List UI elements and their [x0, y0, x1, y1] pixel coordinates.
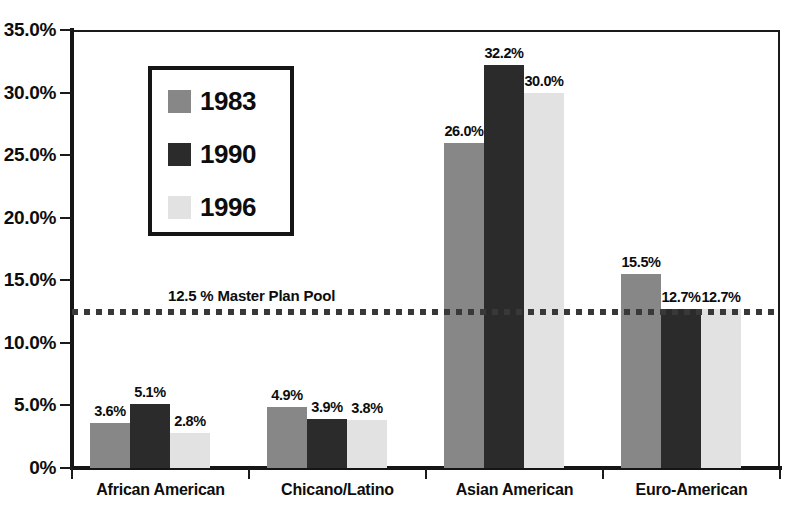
- y-axis-tick-label: 5.0%: [14, 394, 56, 416]
- bar: [267, 407, 307, 468]
- legend-swatch-1990: [168, 143, 191, 166]
- x-axis-tick: [425, 468, 427, 479]
- bar-value-label: 26.0%: [444, 123, 483, 139]
- legend-swatch-1983: [168, 90, 191, 113]
- y-axis-tick: [60, 279, 72, 281]
- y-axis-tick: [60, 404, 72, 406]
- legend-label-1996: 1996: [200, 194, 256, 220]
- legend: 1983 1990 1996: [148, 66, 294, 236]
- legend-label-1983: 1983: [200, 88, 256, 114]
- bar-chart: 0%5.0%10.0%15.0%20.0%25.0%30.0%35.0% 3.6…: [0, 0, 800, 519]
- bar: [170, 433, 210, 468]
- y-axis-tick: [60, 29, 72, 31]
- master-plan-pool-line: [72, 309, 780, 315]
- x-axis-tick: [248, 468, 250, 479]
- y-axis-tick-label: 30.0%: [4, 82, 56, 104]
- bar: [130, 404, 170, 468]
- bar-value-label: 5.1%: [134, 384, 165, 400]
- x-axis-tick: [602, 468, 604, 479]
- bar: [347, 420, 387, 468]
- bar-value-label: 2.8%: [174, 413, 205, 429]
- bar-value-label: 3.8%: [351, 400, 382, 416]
- legend-label-1990: 1990: [200, 141, 256, 167]
- y-axis-tick: [60, 217, 72, 219]
- bar-value-label: 3.6%: [94, 403, 125, 419]
- legend-item: 1983: [168, 88, 256, 114]
- y-axis-tick-label: 25.0%: [4, 144, 56, 166]
- legend-item: 1990: [168, 141, 256, 167]
- bar-value-label: 3.9%: [311, 399, 342, 415]
- x-axis-category-label: Euro-American: [635, 481, 747, 499]
- bar-value-label: 32.2%: [484, 45, 523, 61]
- x-axis-category-label: African American: [96, 481, 225, 499]
- bar: [307, 419, 347, 468]
- master-plan-pool-label: 12.5 % Master Plan Pool: [168, 287, 335, 304]
- y-axis-tick-label: 15.0%: [4, 269, 56, 291]
- y-axis-tick-label: 35.0%: [4, 19, 56, 41]
- y-axis-tick: [60, 92, 72, 94]
- bar-value-label: 12.7%: [701, 289, 740, 305]
- bar-value-label: 15.5%: [621, 254, 660, 270]
- bar: [701, 309, 741, 468]
- bar-value-label: 30.0%: [524, 73, 563, 89]
- x-axis-tick: [779, 468, 781, 479]
- bar: [484, 65, 524, 468]
- x-axis-category-label: Chicano/Latino: [281, 481, 394, 499]
- bar: [621, 274, 661, 468]
- bar-value-label: 4.9%: [271, 387, 302, 403]
- y-axis-tick-label: 0%: [29, 457, 56, 479]
- y-axis-tick-label: 20.0%: [4, 207, 56, 229]
- legend-item: 1996: [168, 194, 256, 220]
- y-axis-tick: [60, 342, 72, 344]
- x-axis-tick: [71, 468, 73, 479]
- bar: [661, 309, 701, 468]
- bar: [524, 93, 564, 468]
- x-axis-category-label: Asian American: [456, 481, 574, 499]
- legend-swatch-1996: [168, 196, 191, 219]
- y-axis-tick: [60, 154, 72, 156]
- y-axis-tick-label: 10.0%: [4, 332, 56, 354]
- bar-value-label: 12.7%: [661, 289, 700, 305]
- bar: [444, 143, 484, 468]
- bar: [90, 423, 130, 468]
